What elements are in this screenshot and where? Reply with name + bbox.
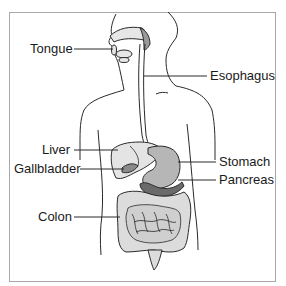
small-intestine-coils bbox=[126, 205, 181, 243]
esophagus-tube bbox=[139, 44, 152, 155]
left-shoulder-outline bbox=[80, 90, 124, 145]
back-of-head-outline bbox=[166, 12, 178, 86]
label-gallbladder: Gallbladder bbox=[14, 162, 81, 176]
rectum-organ bbox=[148, 250, 162, 270]
label-stomach: Stomach bbox=[219, 155, 270, 169]
label-esophagus: Esophagus bbox=[210, 69, 275, 83]
stomach-organ bbox=[143, 146, 180, 188]
right-shoulder-outline bbox=[176, 86, 215, 145]
clavicle-line bbox=[156, 92, 168, 94]
label-tongue: Tongue bbox=[30, 42, 73, 56]
label-pancreas: Pancreas bbox=[219, 173, 274, 187]
label-colon: Colon bbox=[38, 210, 72, 224]
left-torso-outline bbox=[98, 130, 103, 255]
label-liver: Liver bbox=[42, 143, 70, 157]
